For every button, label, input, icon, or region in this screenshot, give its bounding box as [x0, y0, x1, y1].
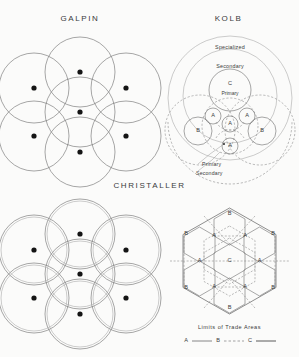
hex-a-label: A: [258, 257, 262, 263]
kolb-center-primary-label: Primary: [221, 90, 239, 96]
kolb-a-label: A: [211, 112, 215, 118]
kolb-a-label: A: [228, 142, 232, 148]
hex-b-label: B: [184, 230, 188, 236]
kolb-center-letter: C: [228, 80, 232, 86]
galpin-circles-diagram: [0, 26, 160, 186]
kolb-lead-primary-label: Primary: [202, 161, 221, 167]
kolb-specialized-label: Specialized: [215, 44, 245, 50]
kolb-lead-secondary-label: Secondary: [196, 170, 223, 176]
christaller-center-dots: [31, 231, 128, 316]
hex-b-label: B: [228, 210, 232, 216]
kolb-specialized-ring: [168, 36, 292, 160]
hex-a-label: A: [243, 232, 247, 238]
kolb-a-label: A: [245, 112, 249, 118]
hex-legend-c-label: C: [247, 337, 251, 343]
kolb-secondary-label: Secondary: [216, 63, 244, 69]
hex-legend-b-label: B: [216, 337, 220, 343]
hex-b-label: B: [271, 284, 275, 290]
hex-a-label: A: [198, 257, 202, 263]
kolb-b-label: B: [196, 127, 200, 133]
hex-b-label: B: [271, 230, 275, 236]
hex-b-label: B: [228, 304, 232, 310]
panel-christaller-circles: [0, 196, 160, 356]
hex-a-label: A: [212, 232, 216, 238]
panel-christaller-title: CHRISTALLER: [0, 181, 299, 190]
panel-kolb: KOLB Specialized Secondary C Primary: [158, 14, 299, 180]
christaller-circles-diagram: [0, 196, 160, 354]
kolb-inner-dash-arc-2: [216, 130, 244, 138]
kolb-b-label: B: [260, 127, 264, 133]
hex-legend-swatches: A B C: [182, 336, 278, 346]
panel-galpin: GALPIN: [0, 14, 160, 180]
hex-a-label: A: [243, 283, 247, 289]
figure-canvas: GALPIN KOLB: [0, 0, 299, 357]
panel-galpin-title: GALPIN: [0, 14, 160, 23]
hex-legend-title: Limits of Trade Areas: [160, 324, 299, 330]
hex-a-label: A: [212, 283, 216, 289]
hex-center-c-label: C: [227, 257, 231, 263]
kolb-service-area-diagram: Specialized Secondary C Primary B B: [158, 26, 299, 186]
christaller-hexagon-diagram: C A A A A A A B B B B B B: [160, 196, 299, 326]
hex-b-label: B: [184, 284, 188, 290]
hex-legend-a-label: A: [184, 337, 188, 343]
panel-kolb-title: KOLB: [158, 14, 299, 23]
panel-christaller-heading: CHRISTALLER: [0, 181, 299, 195]
galpin-center-dots: [31, 69, 128, 154]
hex-legend-keys: A B C: [160, 336, 299, 346]
kolb-a-label: A: [228, 120, 232, 126]
panel-hexagon-lattice: C A A A A A A B B B B B B Limits of Trad…: [160, 196, 299, 357]
kolb-a-circles: A A A A: [205, 108, 255, 154]
